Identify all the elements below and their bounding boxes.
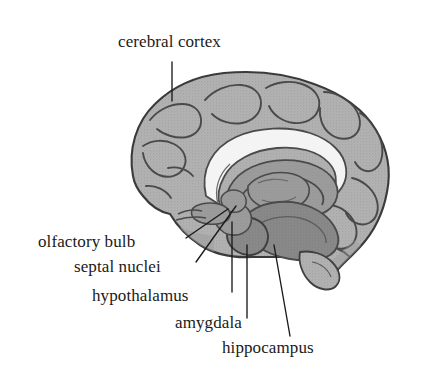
label-amygdala: amygdala xyxy=(175,313,242,333)
brain-diagram-figure: cerebral cortex olfactory bulb septal nu… xyxy=(0,0,421,376)
label-septal-nuclei: septal nuclei xyxy=(74,257,161,277)
label-hippocampus: hippocampus xyxy=(222,338,314,358)
label-hypothalamus: hypothalamus xyxy=(92,286,189,306)
label-olfactory-bulb: olfactory bulb xyxy=(38,232,135,252)
label-cerebral-cortex: cerebral cortex xyxy=(118,32,221,52)
